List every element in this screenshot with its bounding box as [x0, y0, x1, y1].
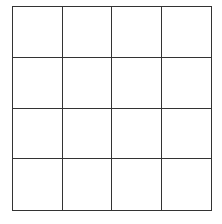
- grid-cell-r1-c4: [162, 7, 212, 58]
- grid-4x4: [12, 6, 212, 211]
- grid-cell-r1-c3: [112, 7, 162, 58]
- grid-cell-r4-c3: [112, 159, 162, 210]
- grid-cell-r2-c4: [162, 58, 212, 109]
- grid-cell-r1-c1: [13, 7, 63, 58]
- grid-cell-r2-c2: [63, 58, 113, 109]
- grid-cell-r1-c2: [63, 7, 113, 58]
- grid-cell-r3-c2: [63, 109, 113, 160]
- grid-cell-r4-c4: [162, 159, 212, 210]
- grid-cell-r2-c3: [112, 58, 162, 109]
- grid-cell-r3-c4: [162, 109, 212, 160]
- grid-cell-r3-c3: [112, 109, 162, 160]
- grid-cell-r4-c1: [13, 159, 63, 210]
- grid-cell-r4-c2: [63, 159, 113, 210]
- grid-cell-r2-c1: [13, 58, 63, 109]
- grid-cell-r3-c1: [13, 109, 63, 160]
